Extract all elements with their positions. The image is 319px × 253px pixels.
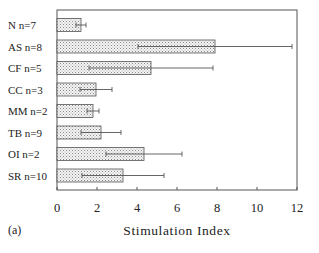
x-tick-label: 8 [214,201,220,215]
bar-as [57,40,292,53]
panel-label: (a) [8,223,21,237]
bar-n [57,19,86,32]
category-labels: N n=7AS n=8CF n=5CC n=3MM n=2TB n=9OI n=… [8,19,48,182]
category-label: TB n=9 [8,127,43,139]
x-axis-label: Stimulation Index [123,223,230,238]
plot-frame [57,10,297,190]
bar-oi [57,148,182,161]
category-label: N n=7 [8,19,36,31]
bars [57,19,292,183]
x-tick-label: 0 [54,201,60,215]
bar-tb [57,126,121,139]
bar-mm [57,105,99,118]
x-tick-label: 12 [291,201,304,215]
category-label: MM n=2 [8,105,48,117]
x-tick-label: 6 [174,201,180,215]
bar-cf [57,62,213,75]
category-label: AS n=8 [8,41,43,53]
x-tick-label: 4 [134,201,141,215]
bar-sr [57,169,164,182]
category-label: CF n=5 [8,62,42,74]
x-tick-label: 2 [94,201,100,215]
category-label: OI n=2 [8,148,40,160]
x-tick-label: 10 [251,201,264,215]
category-label: CC n=3 [8,84,43,96]
category-label: SR n=10 [8,170,47,182]
bar-chart: N n=7AS n=8CF n=5CC n=3MM n=2TB n=9OI n=… [0,0,319,253]
x-axis-ticks: 024681012 [54,187,303,215]
bar-cc [57,83,112,96]
